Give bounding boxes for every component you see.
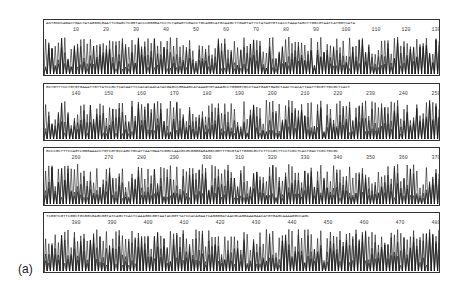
tick-label: 280 bbox=[137, 155, 146, 161]
tick-label: 250 bbox=[431, 91, 440, 97]
chromatogram-panel-3: GCCCGCTTTCCAGTCGGGAAACCTGTCGTGCCAGCTGCAT… bbox=[43, 147, 440, 206]
trace-plot bbox=[44, 227, 440, 272]
tick-label: 430 bbox=[251, 220, 260, 226]
tick-label: 480 bbox=[431, 220, 440, 226]
tick-label: 450 bbox=[323, 220, 332, 226]
position-ticks: 380390400410420430440450460470480 bbox=[44, 220, 439, 227]
tick-label: 400 bbox=[143, 220, 152, 226]
tick-label: 330 bbox=[301, 155, 310, 161]
tick-label: 170 bbox=[170, 91, 179, 97]
tick-label: 240 bbox=[399, 91, 408, 97]
base-sequence: ANTGNNKAGACTGACTATAGGGCGAATTCGAGCTCGGTAC… bbox=[46, 21, 355, 25]
tick-label: 90 bbox=[313, 27, 319, 33]
tick-label: 140 bbox=[71, 91, 80, 97]
trace-plot bbox=[44, 35, 440, 75]
tick-label: 440 bbox=[287, 220, 296, 226]
tick-label: 470 bbox=[395, 220, 404, 226]
position-ticks: 140150160170180190200210220230240250 bbox=[44, 91, 439, 98]
tick-label: 230 bbox=[366, 91, 375, 97]
tick-label: 310 bbox=[235, 155, 244, 161]
tick-label: 110 bbox=[371, 27, 380, 33]
tick-label: 40 bbox=[163, 27, 169, 33]
base-sequence: GCTGTTTCCTGTGTGAAATTGTTATCCGCTCACAATTCCA… bbox=[46, 85, 350, 89]
tick-label: 20 bbox=[103, 27, 109, 33]
chromatogram-panel-4: TCGGTCGTTCGGCTGCGGCGAGCGGTATCAGCTCACTCAA… bbox=[43, 212, 440, 273]
tick-label: 50 bbox=[193, 27, 199, 33]
tick-label: 320 bbox=[268, 155, 277, 161]
tick-label: 60 bbox=[223, 27, 229, 33]
tick-label: 160 bbox=[137, 91, 146, 97]
tick-label: 410 bbox=[179, 220, 188, 226]
tick-label: 220 bbox=[333, 91, 342, 97]
tick-label: 390 bbox=[107, 220, 116, 226]
tick-label: 190 bbox=[235, 91, 244, 97]
tick-label: 340 bbox=[333, 155, 342, 161]
tick-label: 420 bbox=[215, 220, 224, 226]
tick-label: 300 bbox=[202, 155, 211, 161]
position-ticks: 102030405060708090100110120130 bbox=[44, 27, 439, 34]
tick-label: 260 bbox=[71, 155, 80, 161]
tick-label: 270 bbox=[104, 155, 113, 161]
tick-label: 10 bbox=[73, 27, 79, 33]
base-sequence: TCGGTCGTTCGGCTGCGGCGAGCGGTATCAGCTCACTCAA… bbox=[46, 214, 309, 218]
tick-label: 350 bbox=[366, 155, 375, 161]
tick-label: 180 bbox=[202, 91, 211, 97]
tick-label: 130 bbox=[431, 27, 440, 33]
tick-label: 290 bbox=[170, 155, 179, 161]
tick-label: 70 bbox=[253, 27, 259, 33]
trace-plot bbox=[44, 162, 440, 205]
tick-label: 380 bbox=[71, 220, 80, 226]
tick-label: 100 bbox=[341, 27, 350, 33]
tick-label: 80 bbox=[283, 27, 289, 33]
tick-label: 120 bbox=[401, 27, 410, 33]
tick-label: 210 bbox=[301, 91, 310, 97]
position-ticks: 260270280290300310320330340350360370 bbox=[44, 155, 439, 162]
panel-label: (a) bbox=[18, 262, 33, 276]
chromatogram-panel-2: GCTGTTTCCTGTGTGAAATTGTTATCCGCTCACAATTCCA… bbox=[43, 83, 440, 141]
tick-label: 360 bbox=[399, 155, 408, 161]
tick-label: 200 bbox=[268, 91, 277, 97]
tick-label: 460 bbox=[359, 220, 368, 226]
chromatogram-panel-1: ANTGNNKAGACTGACTATAGGGCGAATTCGAGCTCGGTAC… bbox=[43, 19, 440, 76]
tick-label: 150 bbox=[104, 91, 113, 97]
tick-label: 30 bbox=[133, 27, 139, 33]
tick-label: 370 bbox=[431, 155, 440, 161]
trace-plot bbox=[44, 98, 440, 140]
base-sequence: GCCCGCTTTCCAGTCGGGAAACCTGTCGTGCCAGCTGCAT… bbox=[46, 149, 338, 153]
